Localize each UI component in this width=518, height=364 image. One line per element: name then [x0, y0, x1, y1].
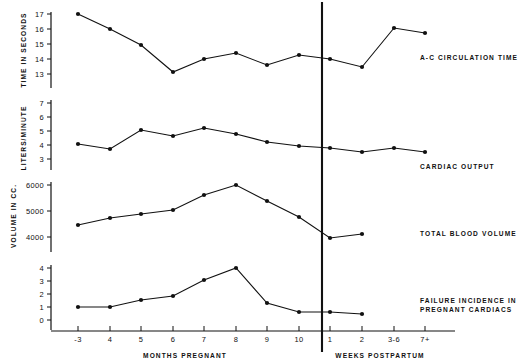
xtick-label-m4: 4 [108, 335, 113, 344]
panel1-series-line [78, 14, 425, 72]
xtick-label-m9: 9 [265, 335, 270, 344]
panel3-ylabel-5000: 5000 [26, 207, 44, 216]
panel2-ylabel-6: 6 [40, 113, 44, 122]
x-label-months-pregnant: MONTHS PREGNANT [143, 352, 227, 359]
panel4-ylabel-3: 3 [40, 277, 44, 286]
chart-svg: 17 16 15 14 13 TIME IN SECONDS A- [0, 0, 518, 364]
xtick-label-m8: 8 [234, 335, 239, 344]
figure-root: 17 16 15 14 13 TIME IN SECONDS A- [0, 0, 518, 364]
panel4-ylabel-4: 4 [40, 264, 44, 273]
x-axis: -3 4 5 6 7 8 9 10 1 2 3-6 7+ MONTHS PREG… [51, 326, 455, 359]
panel3-axis-title: VOLUME IN CC. [10, 184, 17, 248]
xtick-label-m10: 10 [294, 335, 303, 344]
xtick-label-m7: 7 [202, 335, 207, 344]
panel-failure-incidence: 4 3 2 1 0 FAILURE INCIDENCE IN PREGNANT … [40, 264, 517, 330]
panel2-series-line [78, 128, 425, 152]
panel-circulation-time: 17 16 15 14 13 TIME IN SECONDS A- [20, 10, 518, 88]
panel2-ylabel-4: 4 [40, 141, 44, 150]
panel1-ylabel-14: 14 [35, 55, 44, 64]
panel1-ylabel-17: 17 [35, 10, 44, 19]
panel1-ylabel-13: 13 [35, 70, 44, 79]
panel2-ylabel-5: 5 [40, 127, 44, 136]
x-label-weeks-postpartum: WEEKS POSTPARTUM [335, 352, 424, 359]
panel4-ylabel-0: 0 [40, 316, 44, 325]
panel3-series-line [78, 185, 362, 238]
panel4-series-label-line1: FAILURE INCIDENCE IN [420, 297, 517, 304]
panel4-series-label-line2: PREGNANT CARDIACS [420, 306, 512, 313]
xtick-label-m3: -3 [74, 335, 81, 344]
xtick-label-w1: 1 [328, 335, 333, 344]
panel2-ylabel-7: 7 [40, 99, 44, 108]
panel1-series-label: A-C CIRCULATION TIME [420, 54, 518, 61]
panel2-axis-title: LITERS/MINUTE [20, 106, 27, 171]
xtick-label-w2: 2 [360, 335, 365, 344]
panel4-ylabel-2: 2 [40, 290, 44, 299]
panel3-ylabel-4000: 4000 [26, 233, 44, 242]
panel2-series-label: CARDIAC OUTPUT [420, 163, 495, 170]
panel3-ylabel-6000: 6000 [26, 181, 44, 190]
panel3-series-label: TOTAL BLOOD VOLUME [420, 230, 517, 237]
panel1-ylabel-16: 16 [35, 25, 44, 34]
xtick-label-w7plus: 7+ [420, 335, 430, 344]
xtick-label-m6: 6 [171, 335, 176, 344]
panel1-ylabel-15: 15 [35, 40, 44, 49]
panel-cardiac-output: 7 6 5 4 3 LITERS/MINUTE CARDIAC O [20, 99, 495, 170]
panel4-ylabel-1: 1 [40, 303, 44, 312]
panel2-points [76, 126, 427, 154]
panel2-ylabel-3: 3 [40, 155, 44, 164]
panel1-axis-title: TIME IN SECONDS [20, 12, 27, 87]
xtick-label-w36: 3-6 [388, 335, 400, 344]
panel1-points [76, 12, 427, 74]
panel-total-blood-volume: 6000 5000 4000 VOLUME IN CC. TOTAL BLOOD… [10, 181, 517, 252]
panel4-series-line [78, 268, 362, 314]
xtick-label-m5: 5 [139, 335, 144, 344]
